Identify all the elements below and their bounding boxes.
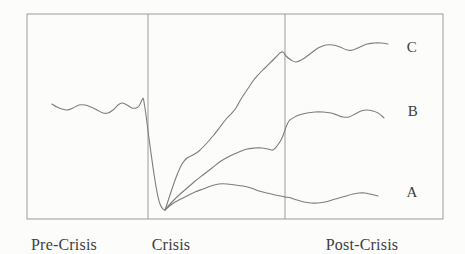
curve-label-b: B <box>408 104 418 119</box>
figure-canvas <box>0 0 465 254</box>
phase-label-pre-crisis: Pre-Crisis <box>31 236 97 254</box>
phase-label-post-crisis: Post-Crisis <box>326 236 398 254</box>
crisis-phases-figure: C B A Pre-Crisis Crisis Post-Crisis <box>0 0 465 254</box>
curve-label-c: C <box>407 40 417 55</box>
phase-label-crisis: Crisis <box>152 236 191 254</box>
curve-c <box>165 43 388 210</box>
curve-label-a: A <box>406 185 417 200</box>
curve-a <box>165 184 378 210</box>
plot-frame <box>27 14 443 219</box>
